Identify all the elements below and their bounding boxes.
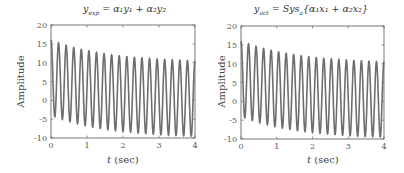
plot-area: 01234-10-505101520 xyxy=(0,0,202,173)
y-tick-label: 20 xyxy=(227,22,237,31)
y-tick-label: 5 xyxy=(232,79,237,88)
y-tick-label: -5 xyxy=(39,115,47,124)
y-tick-label: 0 xyxy=(232,97,237,106)
x-tick-label: 3 xyxy=(156,141,161,150)
y-axis-label: Amplitude xyxy=(15,55,26,107)
signal-line xyxy=(51,40,195,136)
x-axis-label: t (sec) xyxy=(107,154,139,165)
x-tick-label: 2 xyxy=(310,142,315,151)
y-tick-label: 20 xyxy=(37,21,47,30)
signal-line xyxy=(241,41,384,137)
y-tick-label: 15 xyxy=(37,40,47,49)
x-tick-label: 1 xyxy=(274,142,279,151)
x-tick-label: 0 xyxy=(48,141,53,150)
x-tick-label: 2 xyxy=(120,141,125,150)
x-axis-label: t (sec) xyxy=(307,154,339,165)
x-tick-label: 4 xyxy=(381,142,386,151)
y-tick-label: -10 xyxy=(34,134,47,143)
x-tick-label: 1 xyxy=(84,141,89,150)
y-tick-label: -10 xyxy=(224,135,237,144)
chart-panel-actual: yact = Sysa{α₁x₁ + α₂x₂} 01234-10-505101… xyxy=(190,0,392,173)
chart-panel-expected: yexp = α₁y₁ + α₂y₂ 01234-10-505101520 Am… xyxy=(0,0,202,173)
y-tick-label: 5 xyxy=(42,78,47,87)
x-tick-label: 0 xyxy=(238,142,243,151)
y-tick-label: -5 xyxy=(229,116,237,125)
y-tick-label: 0 xyxy=(42,96,47,105)
y-tick-label: 15 xyxy=(227,41,237,50)
x-tick-label: 3 xyxy=(346,142,351,151)
y-tick-label: 10 xyxy=(37,59,47,68)
y-tick-label: 10 xyxy=(227,60,237,69)
y-axis-label: Amplitude xyxy=(216,55,227,107)
